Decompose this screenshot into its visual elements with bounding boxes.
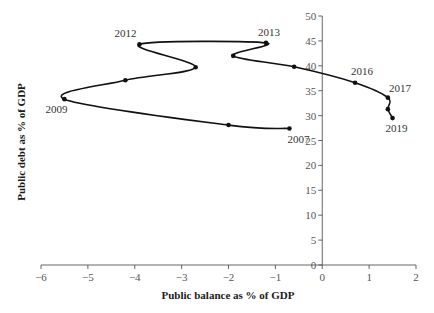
data-point-2015 (292, 64, 297, 69)
year-label-2012: 2012 (114, 27, 136, 39)
y-tick-label: 10 (305, 209, 317, 221)
series-group: 2007200920122013201620172019 (45, 26, 411, 145)
data-point-2011 (193, 65, 198, 70)
x-tick-label: 2 (413, 271, 419, 283)
x-tick-label: −3 (176, 271, 188, 283)
year-label-2017: 2017 (389, 82, 412, 94)
x-axis: −6−5−4−3−2−1012 (35, 265, 419, 283)
data-point-2019 (390, 116, 395, 121)
data-point-2013 (264, 41, 269, 46)
data-point-2018 (386, 107, 391, 112)
x-axis-title: Public balance as % of GDP (162, 289, 295, 301)
data-point-2007 (287, 126, 292, 131)
data-point-2009 (62, 97, 67, 102)
y-tick-label: 45 (305, 35, 317, 47)
x-tick-label: 0 (320, 271, 326, 283)
data-point-2008 (226, 123, 231, 128)
year-label-2016: 2016 (351, 65, 374, 77)
y-tick-label: 35 (305, 85, 317, 97)
y-axis-title: Public debt as % of GDP (15, 83, 27, 201)
series-line (61, 41, 392, 128)
x-tick-label: −5 (82, 271, 94, 283)
y-tick-label: 15 (305, 184, 317, 196)
year-label-2009: 2009 (45, 103, 68, 115)
x-tick-label: −2 (223, 271, 235, 283)
data-point-2016 (353, 80, 358, 85)
x-tick-label: −1 (270, 271, 282, 283)
y-tick-label: 0 (311, 259, 317, 271)
data-point-2010 (123, 78, 128, 83)
y-tick-label: 20 (305, 159, 317, 171)
x-ticks: −6−5−4−3−2−1012 (35, 265, 419, 283)
y-tick-label: 5 (311, 234, 317, 246)
x-tick-label: −6 (35, 271, 47, 283)
data-points (62, 41, 395, 131)
data-point-2014 (231, 54, 236, 59)
data-point-2012 (137, 42, 142, 47)
chart-canvas: −6−5−4−3−2−1012 05101520253035404550 Pub… (0, 0, 434, 313)
x-tick-label: −4 (129, 271, 141, 283)
year-label-2013: 2013 (258, 26, 281, 38)
y-tick-label: 50 (305, 10, 317, 22)
x-tick-label: 1 (366, 271, 372, 283)
y-tick-label: 30 (305, 110, 317, 122)
year-label-2007: 2007 (287, 133, 310, 145)
year-label-2019: 2019 (386, 122, 409, 134)
data-point-2017 (386, 95, 391, 100)
